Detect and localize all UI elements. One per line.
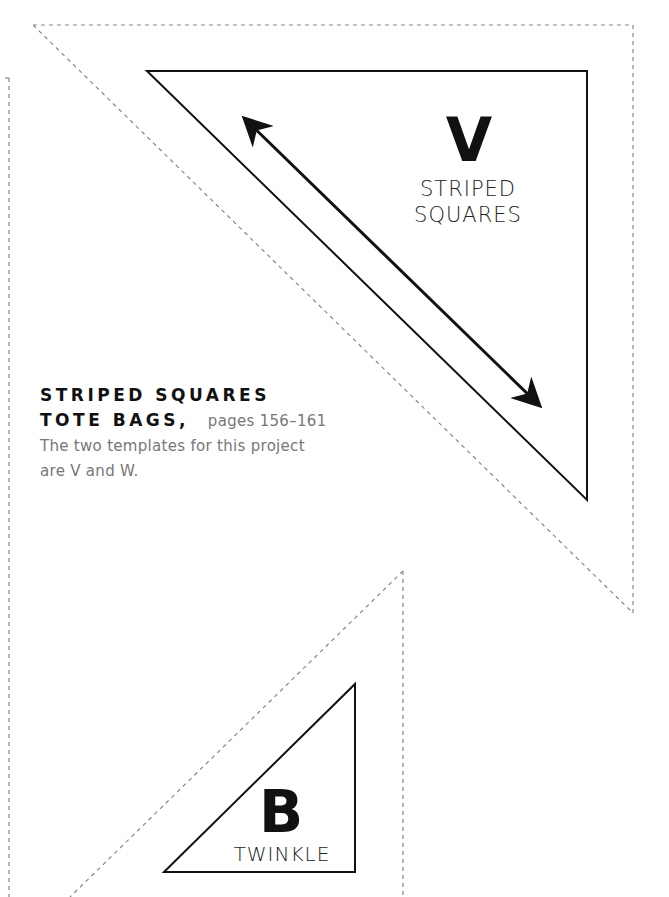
template-v-seam-outline	[33, 25, 633, 613]
project-title-line2: TOTE BAGS	[40, 410, 179, 430]
project-pages: pages 156–161	[208, 412, 327, 430]
project-description-line1: The two templates for this project	[40, 434, 400, 459]
title-separator: ,	[179, 410, 189, 430]
adjacent-template-seam-left	[5, 78, 9, 897]
template-v-name-line2: SQUARES	[388, 202, 548, 228]
project-title-line2-row: TOTE BAGS, pages 156–161	[40, 408, 400, 434]
project-title-line1: STRIPED SQUARES	[40, 383, 400, 408]
template-b-name: TWINKLE	[207, 842, 357, 866]
template-v-name: STRIPED SQUARES	[388, 176, 548, 228]
project-description-line2: are V and W.	[40, 459, 400, 484]
project-caption: STRIPED SQUARES TOTE BAGS, pages 156–161…	[40, 383, 400, 484]
template-v-name-line1: STRIPED	[388, 176, 548, 202]
template-b-letter: B	[231, 783, 331, 841]
template-v-letter: V	[419, 110, 519, 170]
